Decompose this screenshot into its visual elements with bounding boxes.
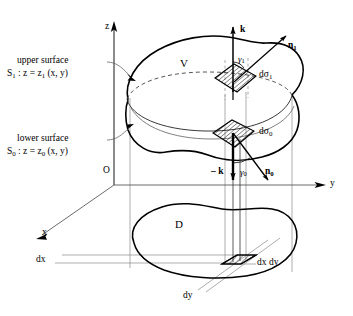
dy-label: dy bbox=[183, 290, 193, 301]
dsigma1-label: dσ1 bbox=[259, 69, 272, 80]
gamma1-sub: 1 bbox=[242, 57, 245, 64]
dxdy-label: dx dy bbox=[257, 257, 278, 268]
projection-region-label: D bbox=[175, 218, 183, 231]
z-axis-label: z bbox=[105, 21, 109, 32]
n1-sub: 1 bbox=[293, 44, 296, 51]
dsigma1-symbol: dσ bbox=[259, 69, 269, 79]
upper-surface-curve bbox=[127, 36, 303, 100]
dsigma0-symbol: dσ bbox=[259, 126, 269, 136]
vector-n0-label: n0 bbox=[265, 166, 274, 177]
upper-surface-rest: : z = z bbox=[16, 68, 42, 78]
x-axis-label: x bbox=[42, 227, 47, 238]
vector-n1-label: n1 bbox=[288, 40, 297, 51]
upper-surface-caption: upper surface bbox=[17, 55, 68, 66]
dx-label: dx bbox=[36, 254, 46, 265]
gamma0-sub: 0 bbox=[244, 170, 247, 177]
y-axis-label: y bbox=[330, 178, 335, 189]
volume-v-body bbox=[126, 36, 303, 160]
angle-gamma1-label: γ1 bbox=[238, 54, 245, 65]
lower-surface-rest: : z = z bbox=[16, 146, 42, 156]
lower-surface-tail: (x, y) bbox=[45, 146, 68, 156]
upper-surface-equation: S1 : z = z1 (x, y) bbox=[7, 68, 68, 79]
dsigma1-sub: 1 bbox=[269, 73, 272, 80]
n0-sub: 0 bbox=[270, 170, 273, 177]
upper-surface-tail: (x, y) bbox=[45, 68, 68, 78]
origin-label: O bbox=[103, 165, 110, 176]
angle-gamma0-label: γ0 bbox=[240, 167, 247, 178]
vector-k-up-label: k bbox=[240, 24, 245, 35]
dsigma0-label: dσ0 bbox=[259, 126, 272, 137]
diagram-canvas bbox=[0, 0, 353, 316]
lower-surface-caption: lower surface bbox=[17, 133, 68, 144]
dsigma0-sub: 0 bbox=[269, 130, 272, 137]
axis-arrowheads bbox=[36, 21, 326, 240]
volume-label: V bbox=[180, 57, 188, 70]
mathematical-diagram: z y x O V D upper surface S1 : z = z1 (x… bbox=[0, 0, 353, 316]
lower-surface-equation: S0 : z = z0 (x, y) bbox=[7, 146, 68, 157]
vector-k-down-label: – k bbox=[211, 166, 223, 177]
